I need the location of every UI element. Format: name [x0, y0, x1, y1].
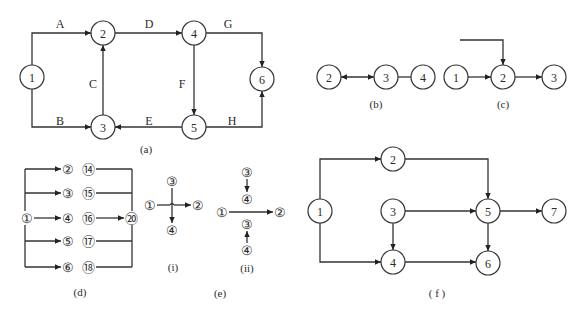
event-node: ④ — [241, 192, 253, 207]
arrowhead-icon — [118, 215, 124, 220]
arrowhead-icon — [470, 208, 476, 213]
diagram-f: 1234567( f ) — [308, 147, 566, 300]
activity-start-node: ⑥ — [62, 260, 74, 275]
node-label: 3 — [551, 71, 557, 85]
node-label: 4 — [390, 256, 396, 270]
node-label: 4 — [191, 27, 197, 41]
node-label: 4 — [420, 71, 426, 85]
activity-end-node: ⑭ — [82, 162, 95, 177]
activity-end-node: ⑮ — [82, 186, 95, 201]
source-node: ① — [21, 211, 33, 226]
edge-arrow — [320, 159, 381, 199]
arrowhead-icon — [485, 245, 490, 251]
activity-start-node: ④ — [62, 211, 74, 226]
arrowhead-icon — [55, 215, 61, 220]
edge-label: B — [56, 114, 64, 128]
arrowhead-icon — [55, 238, 61, 243]
event-node: ② — [192, 198, 204, 213]
arrowhead-icon — [341, 74, 347, 79]
arrowhead-icon — [485, 193, 490, 199]
node-label: 7 — [551, 205, 557, 219]
edge-label: D — [145, 17, 154, 31]
node-label: 2 — [500, 71, 506, 85]
arrowhead-icon — [390, 244, 395, 250]
arrowhead-icon — [267, 209, 273, 214]
arrowhead-icon — [55, 166, 61, 171]
event-node: ② — [274, 205, 286, 220]
diagram-svg: ABCDEFGH123456(a) 234(b) 123(c) ②⑭③⑮④⑯⑤⑰… — [0, 0, 587, 311]
node-label: 1 — [29, 71, 35, 85]
node-label: 6 — [485, 257, 491, 271]
edge-label: E — [145, 114, 152, 128]
arrowhead-icon — [485, 74, 491, 79]
event-node: ④ — [241, 243, 253, 258]
arrowhead-icon — [259, 91, 264, 97]
node-label: 5 — [485, 205, 491, 219]
node-label: 3 — [383, 71, 389, 85]
diagram-b: 234(b) — [317, 65, 435, 111]
caption: ( f ) — [429, 287, 446, 300]
activity-start-node: ③ — [62, 186, 74, 201]
event-node: ③ — [166, 174, 178, 189]
arrowhead-icon — [115, 124, 121, 129]
edge-arrow — [32, 33, 91, 65]
caption: (b) — [370, 98, 383, 111]
arrowhead-icon — [536, 208, 542, 213]
arrowhead-icon — [470, 259, 476, 264]
diagram-a: ABCDEFGH123456(a) — [20, 17, 274, 156]
edge-arrow — [206, 33, 262, 67]
node-label: 1 — [453, 71, 459, 85]
node-label: 2 — [326, 71, 332, 85]
arrowhead-icon — [85, 30, 91, 35]
caption: (a) — [140, 143, 153, 156]
sink-node: ⑳ — [125, 211, 138, 226]
edge-label: C — [89, 77, 97, 91]
caption: (ii) — [240, 262, 254, 275]
arrowhead-icon — [375, 259, 381, 264]
edge-label: G — [224, 17, 233, 31]
event-node: ③ — [241, 217, 253, 232]
edge-arrow — [320, 223, 381, 262]
caption: (i) — [168, 261, 179, 274]
activity-end-node: ⑱ — [82, 260, 95, 275]
diagram-d: ②⑭③⑮④⑯⑤⑰⑥⑱①⑳(d) — [21, 162, 138, 300]
activity-end-node: ⑰ — [82, 234, 95, 249]
arrowhead-icon — [85, 124, 91, 129]
arrowhead-icon — [185, 202, 191, 207]
node-label: 2 — [390, 153, 396, 167]
arrowhead-icon — [259, 61, 264, 67]
arrowhead-icon — [176, 30, 182, 35]
event-node: ④ — [166, 223, 178, 238]
network-diagram-figure: ABCDEFGH123456(a) 234(b) 123(c) ②⑭③⑮④⑯⑤⑰… — [0, 0, 587, 311]
arrowhead-icon — [500, 59, 505, 65]
arrowhead-icon — [55, 190, 61, 195]
arrowhead-icon — [55, 264, 61, 269]
caption: (c) — [497, 98, 510, 111]
activity-start-node: ② — [62, 162, 74, 177]
arrowhead-icon — [191, 109, 196, 115]
node-label: 3 — [100, 121, 106, 135]
node-label: 6 — [259, 73, 265, 87]
arrowhead-icon — [100, 45, 105, 51]
edge-arrow — [405, 159, 488, 199]
diagram-c: 123(c) — [444, 40, 566, 111]
caption: (e) — [214, 287, 227, 300]
node-label: 2 — [100, 27, 106, 41]
edge-label: F — [179, 77, 186, 91]
event-node: ③ — [241, 165, 253, 180]
event-node: ① — [144, 198, 156, 213]
event-node: ① — [216, 205, 228, 220]
arrowhead-icon — [375, 156, 381, 161]
edge-arrow — [460, 40, 503, 65]
arrowhead-icon — [368, 74, 374, 79]
caption: (d) — [74, 286, 87, 299]
node-label: 3 — [390, 205, 396, 219]
edge-label: A — [56, 17, 65, 31]
arrowhead-icon — [244, 231, 249, 237]
node-label: 5 — [191, 121, 197, 135]
diagram-e: ①②③④(i)①②③④③④(ii)(e) — [144, 165, 286, 301]
node-label: 1 — [317, 205, 323, 219]
edge-label: H — [228, 114, 237, 128]
activity-end-node: ⑯ — [82, 211, 95, 226]
activity-start-node: ⑤ — [62, 234, 74, 249]
